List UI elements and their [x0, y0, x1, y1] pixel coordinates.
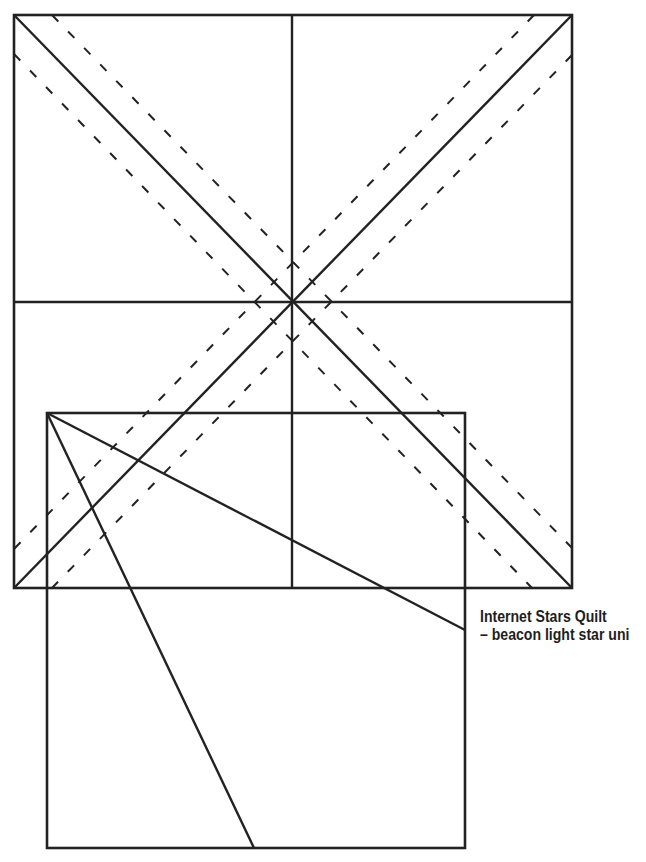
caption-title: Internet Stars Quilt [480, 608, 646, 626]
diagram-caption: Internet Stars Quilt – beacon light star… [480, 608, 646, 644]
template-line-right [47, 413, 465, 630]
caption-subtitle: – beacon light star uni [480, 626, 646, 644]
solid-lines-group [14, 15, 572, 588]
template-rectangle-group [47, 413, 465, 848]
quilt-block-diagram [0, 0, 646, 862]
template-rectangle [47, 413, 465, 848]
template-line-bottom [47, 413, 254, 848]
